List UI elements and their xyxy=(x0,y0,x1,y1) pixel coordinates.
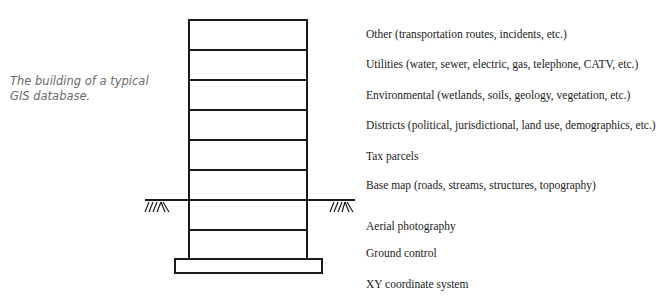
ground-hatch-right xyxy=(330,202,353,212)
foundation-slab xyxy=(175,259,322,273)
layer-label-utilities: Utilities (water, sewer, electric, gas, … xyxy=(366,57,638,71)
ground-hatch-left xyxy=(145,202,169,212)
layer-label-districts: Districts (political, jurisdictional, la… xyxy=(366,118,656,132)
layer-label-aerial-photography: Aerial photography xyxy=(366,219,456,233)
layer-label-xy-coordinate-system: XY coordinate system xyxy=(366,277,468,291)
layer-label-environmental: Environmental (wetlands, soils, geology,… xyxy=(366,88,630,102)
layer-label-tax-parcels: Tax parcels xyxy=(366,149,419,163)
layer-label-base-map: Base map (roads, streams, structures, to… xyxy=(366,178,596,192)
layer-label-other: Other (transportation routes, incidents,… xyxy=(366,27,567,41)
layer-label-ground-control: Ground control xyxy=(366,246,437,260)
